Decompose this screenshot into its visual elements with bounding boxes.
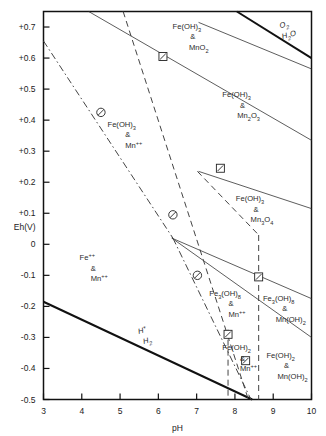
pourbaix-diagram-figure: +0.7+0.6+0.5+0.4+0.3+0.2+0.10-0.1-0.2-0.… — [0, 0, 326, 436]
x-tick-label: 9 — [271, 406, 276, 416]
y-tick-label: -0.5 — [21, 395, 36, 405]
marker-square-slash — [224, 330, 232, 338]
region-label-line: & — [240, 354, 245, 363]
y-tick-label: -0.1 — [21, 270, 36, 280]
region-label-line: & — [91, 264, 96, 273]
y-tick-label: +0.4 — [19, 115, 36, 125]
y-tick-label: -0.4 — [21, 363, 36, 373]
y-tick-label: -0.2 — [21, 301, 36, 311]
x-tick-label: 4 — [79, 406, 84, 416]
marker-circle-slash — [169, 211, 177, 219]
marker-circle-slash — [193, 271, 201, 279]
x-tick-label: 10 — [307, 406, 317, 416]
region-label-line: & — [190, 32, 195, 41]
chart-background — [0, 0, 326, 436]
marker-square-slash — [216, 164, 224, 172]
y-axis-title: Eh(V) — [14, 222, 36, 232]
x-tick-label: 5 — [118, 406, 123, 416]
region-label-line: & — [240, 101, 245, 110]
region-label-line: & — [125, 130, 130, 139]
y-tick-label: 0 — [31, 239, 36, 249]
x-tick-label: 7 — [194, 406, 199, 416]
y-tick-label: +0.7 — [19, 22, 36, 32]
x-tick-label: 6 — [156, 406, 161, 416]
region-label-line: & — [282, 304, 287, 313]
x-axis-title: pH — [172, 423, 183, 433]
y-tick-label: +0.2 — [19, 177, 36, 187]
y-tick-label: +0.3 — [19, 146, 36, 156]
region-label-line: & — [253, 205, 258, 214]
y-tick-label: -0.3 — [21, 332, 36, 342]
eh-ph-diagram: +0.7+0.6+0.5+0.4+0.3+0.2+0.10-0.1-0.2-0.… — [0, 0, 326, 436]
region-label-line: & — [284, 361, 289, 370]
y-tick-label: +0.1 — [19, 208, 36, 218]
y-tick-label: +0.5 — [19, 84, 36, 94]
marker-square-slash — [159, 53, 167, 61]
region-label-line: & — [229, 299, 234, 308]
y-tick-label: +0.6 — [19, 53, 36, 63]
marker-circle-slash — [97, 108, 105, 116]
x-tick-label: 8 — [233, 406, 238, 416]
x-tick-label: 3 — [41, 406, 46, 416]
marker-square-slash — [255, 273, 263, 281]
